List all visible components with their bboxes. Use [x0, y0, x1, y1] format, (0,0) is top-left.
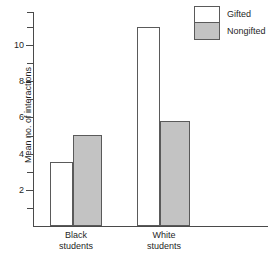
legend: Gifted Nongifted — [194, 6, 266, 40]
x-axis-line — [33, 226, 268, 227]
y-tick-label-8-wrap: 8 — [0, 77, 24, 86]
legend-item-gifted: Gifted — [194, 6, 266, 23]
legend-item-nongifted: Nongifted — [194, 23, 266, 40]
y-tick-label-2: 2 — [2, 186, 24, 195]
y-tick-label-6-wrap: 6 — [0, 113, 24, 122]
y-tick-2 — [26, 190, 34, 191]
y-tick-6 — [26, 117, 34, 118]
group-label-white-line2: students — [124, 241, 204, 252]
y-tick-label-6: 6 — [2, 113, 24, 122]
y-tick-3 — [27, 172, 34, 173]
y-tick-9 — [27, 63, 34, 64]
legend-swatch-gifted — [194, 6, 220, 23]
bar-chart: Mean no. of interactions 2 4 6 8 10 Blac… — [0, 0, 274, 253]
y-tick-label-4-wrap: 4 — [0, 150, 24, 159]
group-label-black: Black students — [36, 230, 116, 252]
legend-label-nongifted: Nongifted — [227, 27, 266, 36]
group-label-white-line1: White — [124, 230, 204, 241]
legend-swatch-nongifted — [194, 23, 220, 40]
bar-black-gifted — [50, 162, 73, 226]
bar-black-nongifted — [73, 135, 102, 226]
legend-label-gifted: Gifted — [227, 10, 251, 19]
group-label-white: White students — [124, 230, 204, 252]
y-tick-label-8: 8 — [2, 77, 24, 86]
bar-white-nongifted — [160, 121, 190, 226]
y-tick-10 — [26, 45, 34, 46]
y-tick-label-10-wrap: 10 — [0, 41, 24, 50]
group-label-black-line2: students — [36, 241, 116, 252]
y-tick-label-2-wrap: 2 — [0, 186, 24, 195]
y-tick-11 — [27, 27, 34, 28]
y-tick-7 — [27, 99, 34, 100]
y-tick-8 — [26, 81, 34, 82]
y-tick-1 — [27, 208, 34, 209]
bar-white-gifted — [137, 27, 160, 226]
y-tick-4 — [26, 154, 34, 155]
y-tick-label-4: 4 — [2, 150, 24, 159]
y-tick-label-10: 10 — [2, 41, 24, 50]
y-tick-5 — [27, 136, 34, 137]
group-label-black-line1: Black — [36, 230, 116, 241]
